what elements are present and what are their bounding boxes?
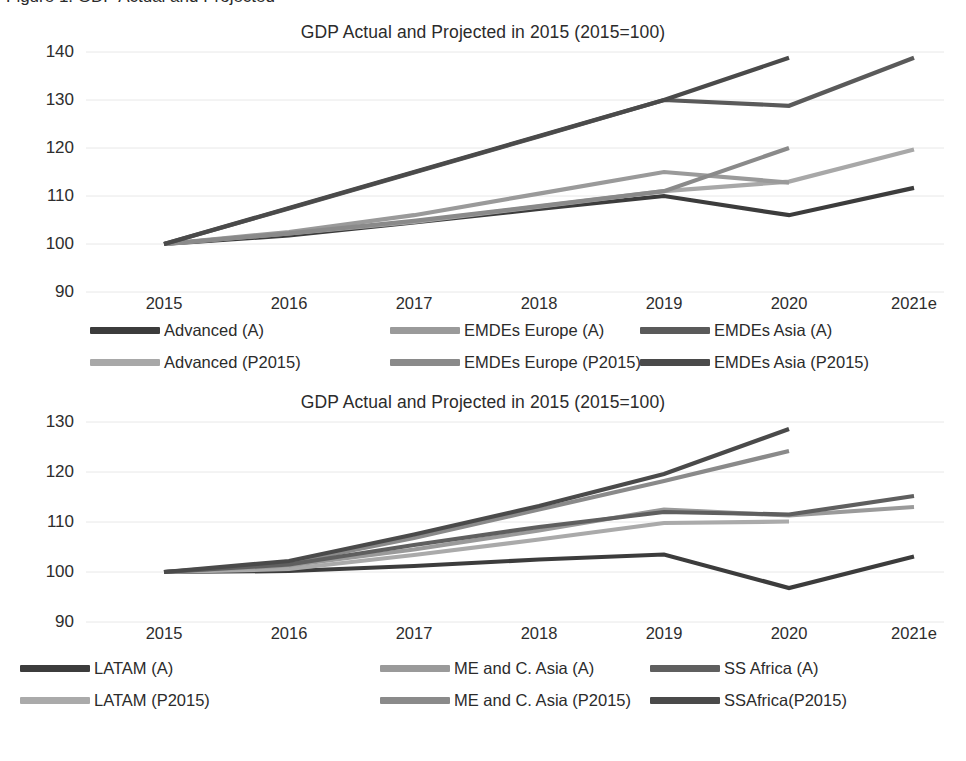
- y-axis-tick-label: 110: [47, 186, 74, 206]
- chart-top-x-axis: 2015201620172018201920202021e: [86, 294, 944, 318]
- series-line: [164, 58, 914, 244]
- legend-color-swatch: [650, 697, 720, 704]
- chart-top-y-axis: 14013012011010090: [0, 52, 84, 292]
- x-axis-tick-label: 2020: [771, 294, 808, 313]
- legend-label: EMDEs Asia (A): [714, 322, 832, 339]
- x-axis-tick-label: 2021e: [891, 294, 937, 313]
- figure-caption: Figure 1. GDP Actual and Projected: [6, 0, 275, 7]
- y-axis-tick-label: 100: [46, 234, 74, 254]
- chart-top-legend: Advanced (A)EMDEs Europe (A)EMDEs Asia (…: [0, 322, 966, 384]
- legend-label: EMDEs Europe (A): [464, 322, 604, 339]
- y-axis-tick-label: 130: [46, 90, 74, 110]
- chart-bottom-title: GDP Actual and Projected in 2015 (2015=1…: [0, 392, 966, 413]
- y-axis-tick-label: 100: [46, 562, 74, 582]
- legend-color-swatch: [20, 697, 90, 704]
- x-axis-tick-label: 2018: [521, 294, 558, 313]
- y-axis-tick-label: 90: [55, 612, 74, 632]
- x-axis-tick-label: 2018: [521, 624, 558, 643]
- legend-item[interactable]: ME and C. Asia (P2015): [380, 692, 631, 709]
- figure-caption-strip: Figure 1. GDP Actual and Projected: [0, 0, 966, 12]
- x-axis-tick-label: 2015: [146, 294, 183, 313]
- chart-bottom: GDP Actual and Projected in 2015 (2015=1…: [0, 392, 966, 752]
- figure-page: Figure 1. GDP Actual and Projected GDP A…: [0, 0, 966, 761]
- legend-label: ME and C. Asia (P2015): [454, 692, 631, 709]
- x-axis-tick-label: 2017: [396, 294, 433, 313]
- legend-label: Advanced (A): [164, 322, 264, 339]
- series-line: [164, 429, 789, 572]
- legend-item[interactable]: LATAM (A): [20, 660, 173, 677]
- legend-item[interactable]: ME and C. Asia (A): [380, 660, 594, 677]
- legend-label: EMDEs Asia (P2015): [714, 354, 869, 371]
- y-axis-tick-label: 110: [47, 512, 74, 532]
- series-line: [164, 172, 789, 244]
- legend-color-swatch: [390, 359, 460, 366]
- legend-item[interactable]: EMDEs Europe (P2015): [390, 354, 641, 371]
- legend-label: LATAM (A): [94, 660, 173, 677]
- legend-color-swatch: [650, 665, 720, 672]
- legend-item[interactable]: Advanced (A): [90, 322, 264, 339]
- legend-item[interactable]: LATAM (P2015): [20, 692, 210, 709]
- chart-top: GDP Actual and Projected in 2015 (2015=1…: [0, 22, 966, 372]
- legend-color-swatch: [390, 327, 460, 334]
- legend-label: EMDEs Europe (P2015): [464, 354, 641, 371]
- legend-color-swatch: [90, 359, 160, 366]
- y-axis-tick-label: 120: [46, 138, 74, 158]
- legend-label: SS Africa (A): [724, 660, 818, 677]
- legend-item[interactable]: SS Africa (A): [650, 660, 818, 677]
- x-axis-tick-label: 2017: [396, 624, 433, 643]
- legend-color-swatch: [380, 665, 450, 672]
- legend-label: Advanced (P2015): [164, 354, 301, 371]
- legend-color-swatch: [640, 359, 710, 366]
- x-axis-tick-label: 2019: [646, 294, 683, 313]
- legend-label: ME and C. Asia (A): [454, 660, 594, 677]
- chart-top-plot-area: [86, 52, 944, 292]
- legend-item[interactable]: EMDEs Asia (A): [640, 322, 832, 339]
- x-axis-tick-label: 2016: [271, 624, 308, 643]
- x-axis-tick-label: 2020: [771, 624, 808, 643]
- chart-top-title: GDP Actual and Projected in 2015 (2015=1…: [0, 22, 966, 43]
- x-axis-tick-label: 2016: [271, 294, 308, 313]
- x-axis-tick-label: 2015: [146, 624, 183, 643]
- legend-color-swatch: [380, 697, 450, 704]
- legend-item[interactable]: Advanced (P2015): [90, 354, 301, 371]
- x-axis-tick-label: 2019: [646, 624, 683, 643]
- legend-label: SSAfrica(P2015): [724, 692, 847, 709]
- y-axis-tick-label: 90: [55, 282, 74, 302]
- legend-item[interactable]: EMDEs Asia (P2015): [640, 354, 869, 371]
- legend-label: LATAM (P2015): [94, 692, 210, 709]
- chart-bottom-plot-area: [86, 422, 944, 622]
- y-axis-tick-label: 130: [46, 412, 74, 432]
- legend-color-swatch: [90, 327, 160, 334]
- chart-bottom-legend: LATAM (A)ME and C. Asia (A)SS Africa (A)…: [0, 660, 966, 722]
- x-axis-tick-label: 2021e: [891, 624, 937, 643]
- legend-color-swatch: [20, 665, 90, 672]
- y-axis-tick-label: 120: [46, 462, 74, 482]
- legend-item[interactable]: SSAfrica(P2015): [650, 692, 847, 709]
- y-axis-tick-label: 140: [46, 42, 74, 62]
- legend-color-swatch: [640, 327, 710, 334]
- chart-bottom-y-axis: 13012011010090: [0, 422, 84, 622]
- legend-item[interactable]: EMDEs Europe (A): [390, 322, 604, 339]
- series-line: [164, 149, 914, 244]
- chart-bottom-x-axis: 2015201620172018201920202021e: [86, 624, 944, 648]
